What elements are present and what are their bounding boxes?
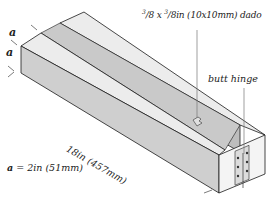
dim-a-side: a xyxy=(6,46,13,59)
dim-a-top: a xyxy=(9,26,16,39)
block-diagram xyxy=(0,0,274,204)
a-definition-label: a = 2in (51mm) xyxy=(7,162,83,173)
dado-den1: /8 x xyxy=(146,10,165,20)
dado-rest: /8in (10x10mm) dado xyxy=(168,10,262,20)
butt-hinge-label: butt hinge xyxy=(208,73,258,84)
a-equation: = 2in (51mm) xyxy=(13,162,83,173)
dado-label: 3/8 x 3/8in (10x10mm) dado xyxy=(142,8,262,20)
